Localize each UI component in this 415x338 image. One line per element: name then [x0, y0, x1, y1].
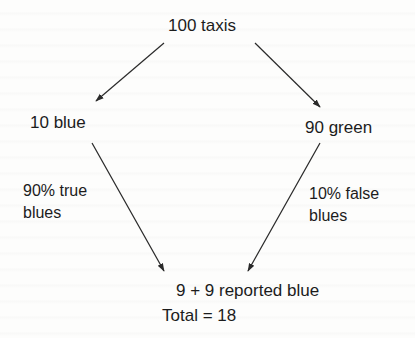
- probability-tree-diagram: 100 taxis 10 blue 90 green 90% true blue…: [0, 0, 415, 338]
- arrow-root-to-blue: [96, 43, 164, 101]
- edge-label-true-blues: 90% true blues: [23, 180, 87, 224]
- edge-label-false-blues-line2: blues: [309, 205, 379, 227]
- arrow-blue-to-result: [92, 143, 164, 271]
- edge-label-false-blues-line1: 10% false: [309, 183, 379, 205]
- edge-label-true-blues-line1: 90% true: [23, 180, 87, 202]
- arrow-root-to-green: [255, 43, 320, 107]
- node-total: Total = 18: [162, 305, 236, 327]
- node-root: 100 taxis: [168, 15, 236, 37]
- node-green: 90 green: [305, 117, 372, 139]
- edge-label-false-blues: 10% false blues: [309, 183, 379, 227]
- node-blue: 10 blue: [30, 112, 86, 134]
- node-result: 9 + 9 reported blue: [176, 280, 319, 302]
- edge-label-true-blues-line2: blues: [23, 202, 87, 224]
